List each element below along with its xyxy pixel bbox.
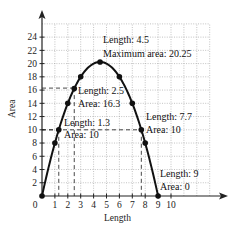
y-tick-label: 6 (32, 152, 37, 162)
data-point (52, 140, 58, 146)
y-tick-label: 24 (28, 32, 38, 42)
data-point (130, 101, 136, 107)
x-tick-label: 10 (166, 200, 176, 210)
y-axis-label: Area (7, 99, 17, 118)
data-point (142, 140, 148, 146)
data-points (39, 59, 161, 199)
y-tick-label: 18 (28, 72, 38, 82)
data-point (56, 127, 62, 133)
y-tick-label: 12 (28, 112, 38, 122)
annotation-max: Length: 4.5 Maximum area: 20.25 (103, 34, 192, 59)
annotation-1-3-length: Length: 1.3 (64, 117, 110, 128)
data-point (78, 74, 84, 80)
y-tick-label: 20 (28, 59, 38, 69)
data-point (155, 193, 161, 199)
data-point (39, 193, 45, 199)
x-tick-label: 2 (65, 200, 70, 210)
annotation-2-5: Length: 2.5 Area: 16.3 (78, 85, 124, 109)
y-tick-label: 4 (32, 165, 37, 175)
x-axis-label: Length (104, 213, 131, 223)
y-tick-label: 14 (28, 99, 38, 109)
x-tick-label: 4 (91, 200, 96, 210)
y-tick-label: 16 (28, 85, 38, 95)
annotation-max-area: Maximum area: 20.25 (103, 48, 192, 59)
annotation-max-length: Length: 4.5 (103, 34, 149, 45)
x-tick-label: 8 (143, 200, 148, 210)
data-point (117, 74, 123, 80)
annotation-9-area: Area: 0 (160, 181, 190, 192)
area-vs-length-chart: 01234567891024681012141618202224 Length … (0, 0, 233, 232)
x-tick-label: 9 (156, 200, 161, 210)
x-tick-label: 6 (117, 200, 122, 210)
annotation-7-7-length: Length: 7.7 (146, 111, 192, 122)
annotation-2-5-length: Length: 2.5 (78, 85, 124, 96)
data-point (139, 127, 145, 133)
x-tick-label: 5 (104, 200, 109, 210)
y-tick-label: 22 (28, 46, 38, 56)
y-tick-label: 8 (32, 138, 37, 148)
x-tick-label: 1 (53, 200, 58, 210)
data-point (71, 86, 77, 92)
annotation-7-7-area: Area: 10 (146, 124, 181, 135)
y-tick-label: 10 (28, 125, 38, 135)
data-point (65, 101, 71, 107)
annotation-1-3: Length: 1.3 Area: 10 (64, 117, 110, 140)
annotation-2-5-area: Area: 16.3 (78, 98, 120, 109)
x-tick-label: 0 (33, 200, 38, 210)
data-point (97, 59, 103, 65)
annotation-9: Length: 9 Area: 0 (160, 168, 199, 192)
y-tick-label: 2 (32, 178, 37, 188)
annotation-1-3-area: Area: 10 (64, 129, 99, 140)
x-tick-label: 7 (130, 200, 135, 210)
annotation-7-7: Length: 7.7 Area: 10 (146, 111, 192, 135)
x-tick-label: 3 (78, 200, 83, 210)
annotation-9-length: Length: 9 (160, 168, 199, 179)
